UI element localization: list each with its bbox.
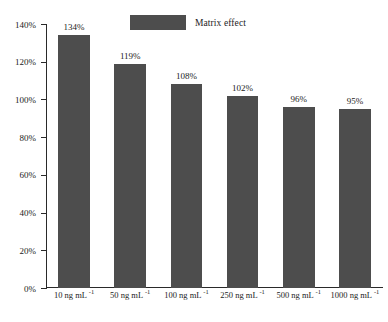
y-axis-tick-label: 100%: [15, 95, 36, 105]
x-axis-label: 100 ng mL -1: [158, 290, 214, 300]
x-axis-label-exponent: -1: [145, 288, 150, 295]
x-axis-label-exponent: -1: [89, 288, 94, 295]
x-axis-label-exponent: -1: [203, 288, 208, 295]
x-axis-label-exponent: -1: [259, 288, 264, 295]
y-axis-tick-label: 60%: [20, 170, 37, 180]
x-axis-label-exponent: -1: [316, 288, 321, 295]
bar-item[interactable]: 95%: [339, 24, 371, 288]
bar-rect[interactable]: [339, 109, 371, 288]
bar-item[interactable]: 102%: [227, 24, 259, 288]
bar-series-matrix-effect: 134%119%108%102%96%95%: [46, 24, 383, 288]
x-axis-labels: 10 ng mL -150 ng mL -1100 ng mL -1250 ng…: [46, 290, 383, 308]
bar-rect[interactable]: [283, 107, 315, 288]
bar-rect[interactable]: [114, 64, 146, 288]
y-axis-tick-label: 40%: [20, 208, 37, 218]
y-axis-tick-label: 120%: [15, 57, 36, 67]
bar-item[interactable]: 134%: [58, 24, 90, 288]
x-axis-label: 10 ng mL -1: [46, 290, 102, 300]
x-axis-label-exponent: -1: [374, 288, 379, 295]
bar-item[interactable]: 119%: [114, 24, 146, 288]
bar-chart: Matrix effect 0%20%40%60%80%100%120%140%…: [0, 0, 388, 322]
bar-rect[interactable]: [58, 35, 90, 288]
x-axis-label: 250 ng mL -1: [215, 290, 271, 300]
plot-area: 0%20%40%60%80%100%120%140% 134%119%108%1…: [46, 24, 383, 288]
x-axis-label: 1000 ng mL -1: [327, 290, 383, 300]
bar-item[interactable]: 96%: [283, 24, 315, 288]
bar-item[interactable]: 108%: [171, 24, 203, 288]
bar-value-label: 95%: [347, 96, 364, 106]
bar-value-label: 96%: [290, 94, 307, 104]
bar-value-label: 108%: [176, 71, 197, 81]
y-axis-tick-label: 140%: [15, 20, 36, 30]
bar-rect[interactable]: [171, 84, 203, 288]
bar-value-label: 102%: [232, 83, 253, 93]
y-axis-tick-label: 80%: [20, 133, 37, 143]
x-axis-label: 50 ng mL -1: [102, 290, 158, 300]
x-axis-label: 500 ng mL -1: [271, 290, 327, 300]
y-axis-tick-label: 0%: [24, 284, 36, 294]
y-axis-tick-label: 20%: [20, 246, 37, 256]
bar-value-label: 119%: [120, 51, 141, 61]
bar-rect[interactable]: [227, 96, 259, 288]
bar-value-label: 134%: [64, 22, 85, 32]
y-axis-tick: 0%: [41, 288, 47, 289]
